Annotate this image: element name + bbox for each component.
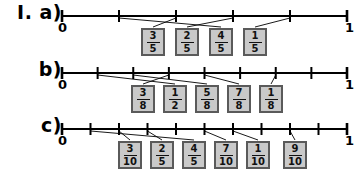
row-c-fraction-boxes: 3102545710110910 bbox=[0, 113, 358, 171]
fraction-numerator: 1 bbox=[268, 88, 275, 98]
row-b-fraction-boxes: 3812587818 bbox=[0, 57, 358, 115]
fraction-box[interactable]: 45 bbox=[182, 141, 206, 169]
fraction-box[interactable]: 15 bbox=[243, 28, 267, 56]
fraction-box[interactable]: 12 bbox=[163, 85, 187, 113]
fraction-box[interactable]: 310 bbox=[118, 141, 142, 169]
fraction-box[interactable]: 78 bbox=[227, 85, 251, 113]
fraction-denominator: 10 bbox=[251, 157, 265, 167]
row-a-fraction-boxes: 35254515 bbox=[0, 0, 358, 58]
fraction-numerator: 5 bbox=[204, 88, 211, 98]
fraction-box[interactable]: 910 bbox=[283, 141, 307, 169]
fraction-denominator: 5 bbox=[159, 157, 166, 167]
fraction-box[interactable]: 25 bbox=[175, 28, 199, 56]
fraction-numerator: 9 bbox=[292, 144, 299, 154]
number-line-row-c: c) 0 1 3102545710110910 bbox=[0, 113, 358, 171]
fraction-number-line-worksheet: I. a) 0 1 35254515 b) 0 1 3812587818 c) … bbox=[0, 0, 358, 174]
fraction-denominator: 5 bbox=[218, 44, 225, 54]
fraction-denominator: 10 bbox=[123, 157, 137, 167]
fraction-box[interactable]: 35 bbox=[141, 28, 165, 56]
fraction-numerator: 3 bbox=[150, 31, 157, 41]
fraction-box[interactable]: 58 bbox=[195, 85, 219, 113]
fraction-numerator: 1 bbox=[255, 144, 262, 154]
fraction-denominator: 5 bbox=[150, 44, 157, 54]
fraction-numerator: 2 bbox=[184, 31, 191, 41]
fraction-box[interactable]: 45 bbox=[209, 28, 233, 56]
fraction-numerator: 2 bbox=[159, 144, 166, 154]
fraction-denominator: 8 bbox=[204, 101, 211, 111]
fraction-numerator: 7 bbox=[236, 88, 243, 98]
fraction-numerator: 3 bbox=[140, 88, 147, 98]
fraction-box[interactable]: 38 bbox=[131, 85, 155, 113]
fraction-box[interactable]: 18 bbox=[259, 85, 283, 113]
fraction-denominator: 5 bbox=[252, 44, 259, 54]
fraction-box[interactable]: 25 bbox=[150, 141, 174, 169]
fraction-box[interactable]: 710 bbox=[214, 141, 238, 169]
fraction-numerator: 3 bbox=[127, 144, 134, 154]
fraction-numerator: 4 bbox=[191, 144, 198, 154]
fraction-box[interactable]: 110 bbox=[246, 141, 270, 169]
fraction-denominator: 8 bbox=[236, 101, 243, 111]
fraction-numerator: 7 bbox=[223, 144, 230, 154]
fraction-denominator: 2 bbox=[172, 101, 179, 111]
number-line-row-a: I. a) 0 1 35254515 bbox=[0, 0, 358, 58]
fraction-numerator: 4 bbox=[218, 31, 225, 41]
fraction-numerator: 1 bbox=[252, 31, 259, 41]
number-line-row-b: b) 0 1 3812587818 bbox=[0, 57, 358, 115]
fraction-denominator: 10 bbox=[219, 157, 233, 167]
fraction-denominator: 8 bbox=[140, 101, 147, 111]
fraction-denominator: 10 bbox=[288, 157, 302, 167]
fraction-denominator: 5 bbox=[184, 44, 191, 54]
fraction-denominator: 8 bbox=[268, 101, 275, 111]
fraction-numerator: 1 bbox=[172, 88, 179, 98]
fraction-denominator: 5 bbox=[191, 157, 198, 167]
